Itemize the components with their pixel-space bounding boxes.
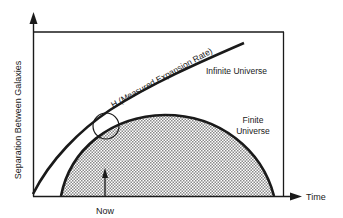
hubble-rate-label: H (Measured Expansion Rate)	[109, 45, 214, 109]
infinite-universe-label: Infinite Universe	[206, 66, 267, 76]
expansion-diagram: Separation Between Galaxies Time Now H (…	[0, 0, 343, 218]
finite-universe-label-line1: Finite	[243, 115, 264, 125]
y-axis-arrowhead	[30, 12, 38, 24]
now-label: Now	[96, 206, 115, 216]
x-axis-label: Time	[306, 192, 326, 202]
finite-universe-label-line2: Universe	[236, 126, 270, 136]
x-axis-arrowhead	[290, 193, 302, 201]
y-axis-label: Separation Between Galaxies	[13, 60, 23, 179]
